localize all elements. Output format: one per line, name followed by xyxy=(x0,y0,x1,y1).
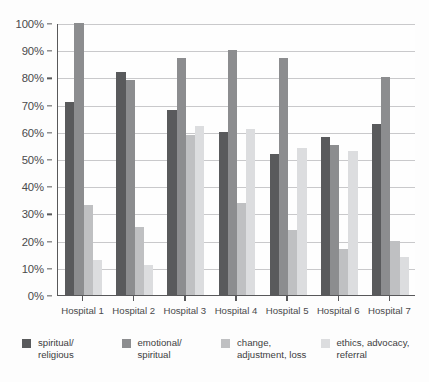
y-tick-label: 30% xyxy=(22,208,44,220)
y-tick-mark xyxy=(47,51,52,52)
x-tick-label: Hospital 4 xyxy=(215,305,258,316)
bar-group xyxy=(167,24,204,295)
bar xyxy=(84,205,93,295)
y-tick-label: 100% xyxy=(16,18,45,30)
legend-label: spiritual/ religious xyxy=(38,337,74,360)
legend-item[interactable]: change, adjustment, loss xyxy=(221,337,321,371)
bar xyxy=(381,77,390,295)
bar xyxy=(126,80,135,295)
bar-group xyxy=(65,24,102,295)
y-tick-label: 0% xyxy=(28,290,44,302)
y-tick-mark xyxy=(47,241,52,242)
bar xyxy=(186,135,195,295)
bar xyxy=(321,137,330,295)
bar-group xyxy=(219,24,256,295)
y-tick-mark xyxy=(47,105,52,106)
x-tick-label: Hospital 2 xyxy=(112,305,155,316)
y-tick-mark xyxy=(47,23,52,24)
y-tick-mark xyxy=(47,187,52,188)
x-tick-mark xyxy=(133,296,134,301)
bar xyxy=(195,126,204,295)
y-tick-label: 80% xyxy=(22,72,44,84)
x-tick-mark xyxy=(235,296,236,301)
y-tick-mark xyxy=(47,159,52,160)
bar xyxy=(330,145,339,295)
bar xyxy=(297,148,306,295)
bar-group xyxy=(116,24,153,295)
legend-item[interactable]: ethics, advocacy, referral xyxy=(321,337,421,371)
legend-label: ethics, advocacy, referral xyxy=(337,337,410,360)
x-tick-mark xyxy=(389,296,390,301)
bar xyxy=(390,241,399,295)
y-tick-label: 40% xyxy=(22,181,44,193)
y-axis: 0%10%20%30%40%50%60%70%80%90%100% xyxy=(0,24,52,296)
bar xyxy=(177,58,186,295)
legend-swatch-icon xyxy=(221,339,230,348)
x-tick-mark xyxy=(184,296,185,301)
bar xyxy=(400,257,409,295)
y-tick-label: 70% xyxy=(22,100,44,112)
bar xyxy=(167,110,176,295)
bar-group xyxy=(372,24,409,295)
x-axis: Hospital 1Hospital 2Hospital 3Hospital 4… xyxy=(57,296,415,322)
x-tick-label: Hospital 3 xyxy=(164,305,207,316)
legend-item[interactable]: spiritual/ religious xyxy=(22,337,122,371)
legend-swatch-icon xyxy=(321,339,330,348)
legend-label: change, adjustment, loss xyxy=(237,337,306,360)
bar xyxy=(279,58,288,295)
legend-swatch-icon xyxy=(22,339,31,348)
bar xyxy=(65,102,74,295)
bars-layer xyxy=(58,24,415,295)
bar xyxy=(93,260,102,295)
y-tick-mark xyxy=(47,214,52,215)
y-tick-label: 90% xyxy=(22,45,44,57)
x-tick-label: Hospital 1 xyxy=(61,305,104,316)
x-tick-mark xyxy=(82,296,83,301)
chart-legend: spiritual/ religiousemotional/ spiritual… xyxy=(22,337,420,371)
bar xyxy=(372,124,381,295)
x-tick-label: Hospital 6 xyxy=(317,305,360,316)
bar-group xyxy=(321,24,358,295)
bar xyxy=(135,227,144,295)
bar xyxy=(270,154,279,295)
y-tick-mark xyxy=(47,295,52,296)
y-tick-label: 10% xyxy=(22,263,44,275)
y-tick-mark xyxy=(47,132,52,133)
bar xyxy=(246,129,255,295)
x-tick-mark xyxy=(338,296,339,301)
bar xyxy=(116,72,125,295)
bar xyxy=(339,249,348,295)
x-tick-label: Hospital 5 xyxy=(266,305,309,316)
bar-group xyxy=(270,24,307,295)
y-tick-label: 60% xyxy=(22,127,44,139)
y-tick-label: 50% xyxy=(22,154,44,166)
bar xyxy=(219,132,228,295)
x-tick-label: Hospital 7 xyxy=(368,305,411,316)
y-tick-mark xyxy=(47,268,52,269)
bar-chart-figure: 0%10%20%30%40%50%60%70%80%90%100% Hospit… xyxy=(0,0,429,382)
legend-label: emotional/ spiritual xyxy=(138,337,182,360)
y-tick-mark xyxy=(47,78,52,79)
plot-area xyxy=(57,24,415,296)
legend-swatch-icon xyxy=(122,339,131,348)
legend-item[interactable]: emotional/ spiritual xyxy=(122,337,222,371)
bar xyxy=(228,50,237,295)
x-tick-mark xyxy=(286,296,287,301)
bar xyxy=(144,265,153,295)
y-tick-label: 20% xyxy=(22,236,44,248)
bar xyxy=(288,230,297,295)
bar xyxy=(237,203,246,295)
bar xyxy=(348,151,357,295)
bar xyxy=(74,23,83,295)
